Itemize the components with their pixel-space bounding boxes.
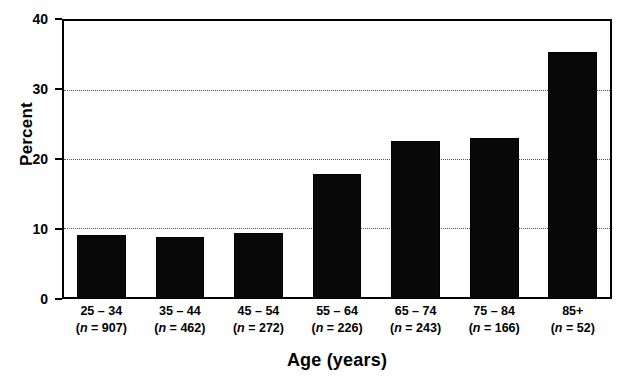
x-tick-label-sample-size: (n = 166) bbox=[455, 320, 534, 337]
gridlines-layer bbox=[64, 21, 610, 297]
gridline bbox=[64, 228, 610, 229]
y-tick-mark bbox=[55, 88, 62, 90]
x-axis-tick-labels: 25 – 34(n = 907)35 – 44(n = 462)45 – 54(… bbox=[62, 303, 612, 336]
y-tick-mark bbox=[55, 158, 62, 160]
x-tick-label-range: 35 – 44 bbox=[141, 303, 220, 320]
x-axis-title: Age (years) bbox=[62, 350, 612, 371]
x-tick-label-group: 75 – 84(n = 166) bbox=[455, 303, 534, 336]
x-tick-label-sample-size: (n = 462) bbox=[141, 320, 220, 337]
x-tick-label-group: 85+(n = 52) bbox=[533, 303, 612, 336]
y-tick-label: 40 bbox=[32, 11, 48, 27]
y-tick-label: 10 bbox=[32, 221, 48, 237]
x-tick-label-range: 55 – 64 bbox=[298, 303, 377, 320]
y-axis-ticks: 403020100 bbox=[0, 19, 62, 299]
plot-area bbox=[62, 19, 612, 299]
x-tick-label-range: 65 – 74 bbox=[376, 303, 455, 320]
bar-chart-figure: Percent 403020100 25 – 34(n = 907)35 – 4… bbox=[0, 0, 624, 387]
y-tick-mark bbox=[55, 18, 62, 20]
gridline bbox=[64, 159, 610, 160]
y-tick-mark bbox=[55, 298, 62, 300]
y-tick-label: 0 bbox=[40, 291, 48, 307]
x-tick-label-group: 35 – 44(n = 462) bbox=[141, 303, 220, 336]
x-tick-label-sample-size: (n = 907) bbox=[62, 320, 141, 337]
x-tick-label-sample-size: (n = 243) bbox=[376, 320, 455, 337]
x-tick-label-range: 75 – 84 bbox=[455, 303, 534, 320]
x-tick-label-group: 25 – 34(n = 907) bbox=[62, 303, 141, 336]
x-tick-label-range: 85+ bbox=[533, 303, 612, 320]
x-tick-label-group: 45 – 54(n = 272) bbox=[219, 303, 298, 336]
x-tick-label-sample-size: (n = 272) bbox=[219, 320, 298, 337]
x-tick-label-range: 25 – 34 bbox=[62, 303, 141, 320]
x-tick-label-sample-size: (n = 226) bbox=[298, 320, 377, 337]
y-tick-label: 30 bbox=[32, 81, 48, 97]
x-tick-label-group: 55 – 64(n = 226) bbox=[298, 303, 377, 336]
y-tick-label: 20 bbox=[32, 151, 48, 167]
x-tick-label-group: 65 – 74(n = 243) bbox=[376, 303, 455, 336]
x-tick-label-range: 45 – 54 bbox=[219, 303, 298, 320]
x-tick-label-sample-size: (n = 52) bbox=[533, 320, 612, 337]
gridline bbox=[64, 90, 610, 91]
y-tick-mark bbox=[55, 228, 62, 230]
